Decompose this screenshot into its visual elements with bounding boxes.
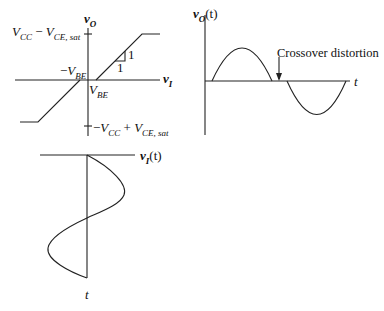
vo-t-axis-label: vO(t) <box>193 7 218 24</box>
vi-t-axis-label: vI(t) <box>140 149 162 166</box>
output-positive-half <box>212 48 272 81</box>
upper-limit-label: VCC − VCE, sat <box>12 25 80 42</box>
lower-limit-label: −VCC + VCE, sat <box>93 121 169 138</box>
vo-axis-label: vO <box>84 12 96 29</box>
input-time-axis-label: t <box>85 288 89 301</box>
crossover-arrow-head <box>276 73 282 81</box>
vi-axis-label: vI <box>163 72 172 89</box>
slope-run-label: 1 <box>117 61 124 74</box>
neg-vbe-label: −VBE <box>60 64 86 81</box>
transfer-curve-negative <box>20 80 80 122</box>
pos-vbe-label: VBE <box>89 83 108 100</box>
t-axis-label: t <box>354 75 358 88</box>
crossover-distortion-label: Crossover distortion <box>277 47 379 60</box>
output-negative-half <box>287 81 346 115</box>
slope-rise-label: 1 <box>128 48 135 61</box>
input-sine-curve <box>48 155 125 278</box>
